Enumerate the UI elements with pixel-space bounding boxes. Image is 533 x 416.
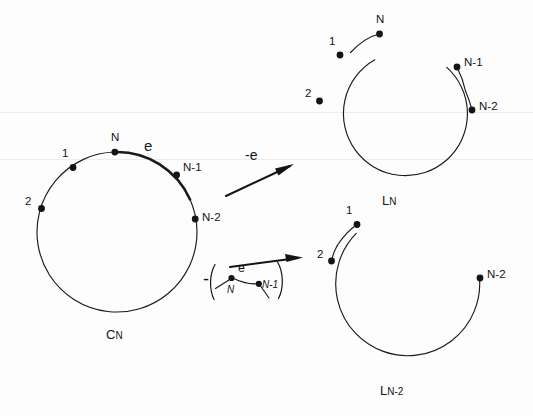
path-ln-label-N-1: N-1: [464, 57, 483, 69]
inset-label-N: N: [227, 285, 234, 295]
path-ln-label-1: 1: [329, 36, 335, 48]
path-ln2-arc: [336, 233, 480, 355]
cycle-label-2: 2: [25, 196, 31, 208]
path-ln2-graph-name-sub: N-2: [387, 386, 403, 397]
path-ln2-node-N-2: [477, 275, 484, 282]
cycle-label-N: N: [111, 132, 119, 144]
path-ln2-label-2: 2: [317, 249, 323, 261]
inset-open-paren: [211, 265, 215, 300]
cycle-label-N-1: N-1: [183, 162, 202, 174]
path-ln2-open-ends: [332, 225, 358, 262]
path-ln2-end-top2: [332, 246, 338, 261]
diagram-svg: [0, 0, 533, 416]
arrow-delete-head: [275, 164, 294, 176]
path-ln2-label-1: 1: [346, 205, 352, 217]
path-ln2-label-N-2: N-2: [487, 269, 506, 281]
arrow-contract-head: [285, 254, 303, 262]
graph-path-ln2: [328, 221, 483, 356]
path-ln-arc: [343, 60, 467, 176]
path-ln-node-2: [316, 98, 323, 105]
path-ln-graph-name-sub: N: [389, 196, 396, 207]
cycle-label-N-2: N-2: [202, 212, 221, 224]
scan-artifacts: [0, 113, 533, 160]
cycle-node-N-1: [173, 172, 180, 179]
graph-path-ln: [316, 31, 475, 176]
inset-edge-e: [233, 278, 259, 284]
path-ln-node-1: [337, 52, 344, 59]
arrow-contract-minus: -: [203, 270, 209, 288]
cycle-edge-label-e: e: [144, 138, 152, 153]
inset-node-N-1: [256, 281, 262, 287]
path-ln-label-N-2: N-2: [479, 101, 498, 113]
inset-node-N: [228, 275, 234, 281]
arrow-delete-edge: [226, 164, 294, 196]
inset-close-paren: [278, 262, 283, 299]
cycle-node-1: [70, 164, 77, 171]
cycle-node-N: [111, 149, 118, 156]
path-ln-label-2: 2: [305, 88, 311, 100]
path-ln2-graph-name: LN-2: [380, 384, 403, 397]
path-ln-label-N: N: [376, 14, 384, 26]
inset-label-N-1: N-1: [262, 280, 278, 290]
path-ln-graph-name: LN: [382, 194, 396, 207]
cycle-graph-name-sub: N: [115, 330, 122, 341]
path-ln-open-ends: [351, 34, 473, 110]
cycle-node-2: [38, 205, 45, 212]
cycle-graph-name-base: C: [106, 327, 115, 342]
cycle-graph-name: CN: [106, 328, 123, 341]
path-ln-end-top: [351, 34, 380, 53]
diagram-canvas: N 1 2 N-1 N-2 e CN N 1 2 N-1 N-2 LN 1 2 …: [0, 0, 533, 416]
cycle-label-1: 1: [62, 148, 68, 160]
arrow-delete-label: -e: [245, 148, 257, 162]
cycle-node-N-2: [192, 216, 199, 223]
graph-cycle-cn: [37, 149, 199, 312]
inset-edge-label-e: e: [238, 262, 245, 275]
